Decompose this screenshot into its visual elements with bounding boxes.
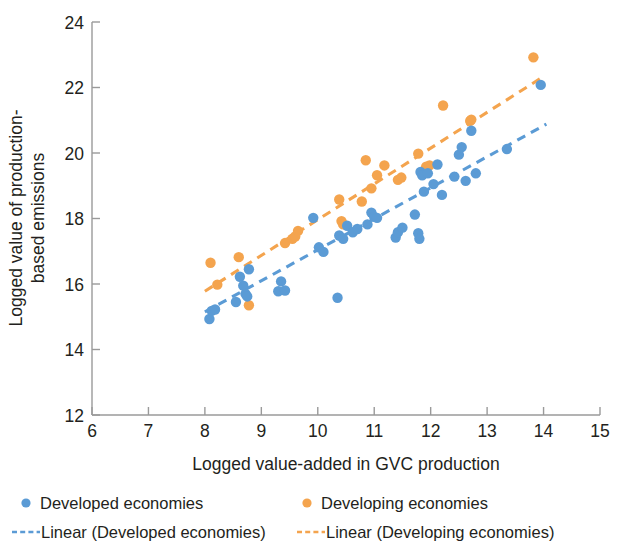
- data-point: [419, 186, 429, 196]
- data-point: [332, 293, 342, 303]
- y-tick-label: 14: [65, 340, 85, 360]
- y-tick-label: 18: [65, 209, 84, 229]
- data-point: [352, 224, 362, 234]
- x-tick-label: 6: [87, 421, 97, 441]
- chart-legend: Developed economies Developing economies…: [12, 494, 554, 541]
- data-point: [397, 222, 407, 232]
- x-axis-title: Logged value-added in GVC production: [192, 454, 499, 474]
- data-point: [234, 252, 244, 262]
- legend-label-linear-developed[interactable]: Linear (Developed economies): [41, 523, 266, 541]
- legend-label-developed[interactable]: Developed economies: [40, 494, 203, 512]
- series-developed-points: [204, 80, 546, 325]
- data-point: [308, 213, 318, 223]
- data-point: [428, 179, 438, 189]
- data-point: [432, 159, 442, 169]
- data-point: [357, 196, 367, 206]
- legend-dot-developing-icon: [302, 498, 311, 507]
- x-axis-ticks: 6789101112131415: [87, 407, 610, 441]
- data-point: [536, 80, 546, 90]
- data-point: [471, 168, 481, 178]
- legend-dot-developed-icon: [21, 498, 30, 507]
- data-point: [372, 213, 382, 223]
- data-point: [244, 264, 254, 274]
- data-point: [372, 170, 382, 180]
- data-point: [276, 276, 286, 286]
- data-point: [235, 272, 245, 282]
- x-tick-label: 8: [200, 421, 210, 441]
- data-point: [210, 304, 220, 314]
- data-point: [502, 144, 512, 154]
- x-tick-label: 14: [534, 421, 554, 441]
- data-point: [413, 148, 423, 158]
- x-tick-label: 9: [256, 421, 266, 441]
- data-point: [242, 291, 252, 301]
- data-point: [280, 285, 290, 295]
- legend-label-linear-developing[interactable]: Linear (Developing economies): [326, 523, 554, 541]
- legend-label-developing[interactable]: Developing economies: [321, 494, 488, 512]
- data-point: [449, 171, 459, 181]
- y-axis-title-line-2: based emissions: [28, 153, 48, 284]
- y-tick-label: 20: [65, 144, 85, 164]
- data-point: [438, 100, 448, 110]
- chart-canvas: 12141618202224 6789101112131415 Logged v…: [0, 0, 629, 545]
- y-tick-label: 22: [65, 78, 84, 98]
- data-point: [466, 114, 476, 124]
- data-point: [293, 226, 303, 236]
- series-developing-points: [205, 52, 538, 310]
- y-tick-label: 24: [65, 13, 85, 33]
- data-point: [366, 183, 376, 193]
- scatter-chart-figure: 12141618202224 6789101112131415 Logged v…: [0, 0, 629, 545]
- x-tick-label: 10: [308, 421, 328, 441]
- data-point: [414, 234, 424, 244]
- data-point: [361, 155, 371, 165]
- data-point: [460, 176, 470, 186]
- y-axis-title-line-1: Logged value of production-: [6, 109, 26, 326]
- x-tick-label: 15: [590, 421, 609, 441]
- data-point: [244, 300, 254, 310]
- data-point: [466, 126, 476, 136]
- x-tick-label: 11: [365, 421, 383, 441]
- data-point: [338, 234, 348, 244]
- data-point: [212, 279, 222, 289]
- trendlines: [205, 78, 546, 312]
- data-point: [334, 194, 344, 204]
- y-tick-label: 16: [65, 275, 84, 295]
- x-tick-label: 12: [421, 421, 440, 441]
- data-point: [437, 190, 447, 200]
- x-tick-label: 13: [477, 421, 496, 441]
- data-point: [410, 209, 420, 219]
- data-point: [205, 258, 215, 268]
- y-tick-label: 12: [65, 406, 84, 426]
- data-point: [379, 160, 389, 170]
- data-point: [457, 142, 467, 152]
- data-point: [396, 172, 406, 182]
- y-axis-ticks: 12141618202224: [65, 13, 100, 426]
- data-point: [423, 168, 433, 178]
- data-point: [231, 297, 241, 307]
- data-point: [528, 52, 538, 62]
- axis-lines: [92, 22, 600, 415]
- x-tick-label: 7: [144, 421, 154, 441]
- data-point: [318, 247, 328, 257]
